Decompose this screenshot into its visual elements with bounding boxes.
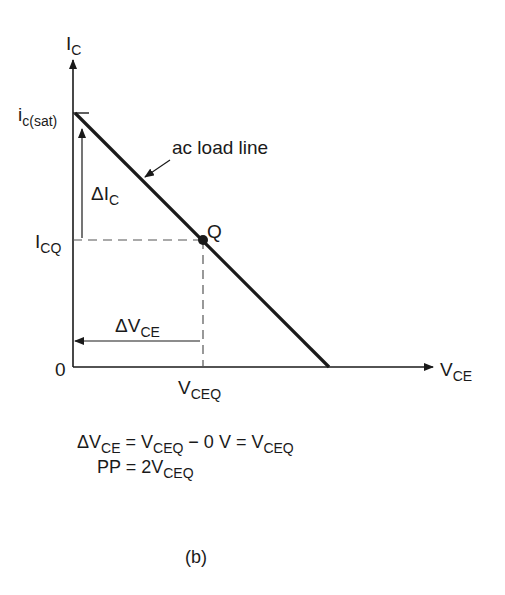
delta-vce-label: ΔVCE [115,316,160,339]
q-label: Q [207,222,222,241]
x-axis-label-sub: CE [453,368,472,384]
eq1-part3: − 0 V = V [183,432,263,452]
eq2-sub1: CEQ [163,465,193,481]
load-line-label: ac load line [172,138,268,157]
figure-caption: (b) [185,548,207,566]
icq-label-sub: CQ [40,240,61,256]
vceq-label-sub: CEQ [191,386,221,402]
y-axis-label: IC [66,34,81,57]
vceq-label: VCEQ [178,378,221,401]
delta-ic-label-main: ΔI [91,183,109,204]
eq1-sub1: CE [101,440,120,456]
origin-label: 0 [55,360,66,379]
eq1-part1: ΔV [77,432,101,452]
sat-label: ic(sat) [18,105,57,128]
y-axis-label-sub: C [71,42,81,58]
delta-vce-label-main: ΔV [115,315,140,336]
equation-line-1: ΔVCE = VCEQ − 0 V = VCEQ [77,433,294,455]
x-axis-label: VCE [440,360,472,383]
delta-vce-label-sub: CE [140,324,159,340]
delta-ic-label: ΔIC [91,184,119,207]
icq-label: ICQ [35,232,61,255]
load-line-diagram [0,0,505,595]
sat-label-sub: c(sat) [22,113,57,129]
x-axis-label-main: V [440,359,453,380]
eq1-sub2: CEQ [153,440,183,456]
eq2-part1: PP = 2V [97,457,163,477]
delta-ic-label-sub: C [109,192,119,208]
eq1-sub3: CEQ [263,440,293,456]
vceq-label-main: V [178,377,191,398]
load-line-pointer-arrow [145,160,170,177]
equation-line-2: PP = 2VCEQ [97,458,194,480]
eq1-part2: = V [120,432,153,452]
